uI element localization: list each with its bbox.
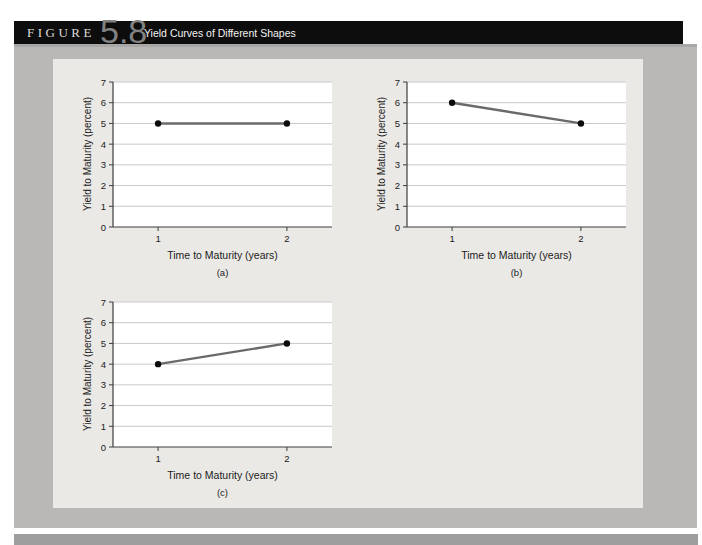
y-axis-label: Yield to Maturity (percent) [82, 317, 93, 431]
svg-text:6: 6 [395, 97, 400, 108]
plot-area-a: 0123456712 [95, 75, 335, 243]
svg-text:2: 2 [395, 180, 400, 191]
figure-page: FIGURE 5.8 Yield Curves of Different Sha… [0, 0, 702, 545]
svg-text:5: 5 [101, 118, 106, 129]
page-bottom-bar [14, 534, 698, 545]
svg-text:1: 1 [449, 233, 454, 243]
svg-text:1: 1 [155, 233, 160, 243]
svg-text:0: 0 [101, 442, 106, 453]
chart-caption-b: (b) [407, 267, 626, 278]
y-axis-label: Yield to Maturity (percent) [82, 97, 93, 211]
svg-text:1: 1 [155, 453, 160, 463]
svg-text:2: 2 [578, 233, 583, 243]
svg-text:5: 5 [395, 118, 400, 129]
svg-text:4: 4 [395, 139, 400, 150]
svg-text:0: 0 [395, 222, 400, 233]
x-axis-label: Time to Maturity (years) [113, 249, 332, 261]
svg-text:4: 4 [101, 139, 106, 150]
svg-text:1: 1 [101, 421, 106, 432]
svg-text:3: 3 [395, 159, 400, 170]
y-axis-label: Yield to Maturity (percent) [376, 97, 387, 211]
chart-caption-a: (a) [113, 267, 332, 278]
figure-label: FIGURE [27, 25, 95, 41]
chart-caption-c: (c) [113, 487, 332, 498]
svg-text:2: 2 [101, 180, 106, 191]
svg-text:4: 4 [101, 359, 106, 370]
header-bar-shadow [14, 44, 697, 47]
figure-header-bar: FIGURE 5.8 Yield Curves of Different Sha… [14, 21, 683, 44]
svg-text:6: 6 [101, 317, 106, 328]
svg-text:7: 7 [101, 297, 106, 308]
svg-text:2: 2 [284, 453, 289, 463]
yield-curve-chart-b: Yield to Maturity (percent) 0123456712 T… [364, 70, 636, 282]
svg-text:3: 3 [101, 159, 106, 170]
svg-text:2: 2 [101, 400, 106, 411]
figure-number: 5.8 [100, 14, 147, 48]
figure-title: Yield Curves of Different Shapes [144, 27, 296, 39]
svg-text:5: 5 [101, 338, 106, 349]
svg-text:3: 3 [101, 379, 106, 390]
svg-text:2: 2 [284, 233, 289, 243]
svg-text:1: 1 [101, 201, 106, 212]
svg-text:7: 7 [395, 77, 400, 88]
svg-text:0: 0 [101, 222, 106, 233]
svg-text:7: 7 [101, 77, 106, 88]
plot-area-b: 0123456712 [389, 75, 629, 243]
yield-curve-chart-a: Yield to Maturity (percent) 0123456712 T… [70, 70, 342, 282]
x-axis-label: Time to Maturity (years) [407, 249, 626, 261]
svg-text:6: 6 [101, 97, 106, 108]
x-axis-label: Time to Maturity (years) [113, 469, 332, 481]
yield-curve-chart-c: Yield to Maturity (percent) 0123456712 T… [70, 290, 342, 502]
plot-area-c: 0123456712 [95, 295, 335, 463]
svg-text:1: 1 [395, 201, 400, 212]
